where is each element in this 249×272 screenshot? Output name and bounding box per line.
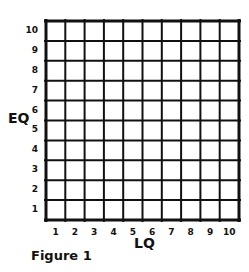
x-tick-label: 9 [202,227,218,237]
grid [44,19,241,222]
figure-caption: Figure 1 [31,248,92,263]
y-tick-label: 1 [22,204,38,214]
x-tick-label: 8 [183,227,199,237]
x-tick-label: 2 [67,227,83,237]
x-tick-label: 7 [163,227,179,237]
y-tick-label: 8 [22,65,38,75]
y-tick-label: 7 [22,85,38,95]
y-tick-label: 3 [22,164,38,174]
y-tick-label: 2 [22,184,38,194]
y-tick-label: 4 [22,144,38,154]
x-tick-label: 10 [221,227,237,237]
x-tick-label: 4 [106,227,122,237]
x-axis-title: LQ [134,235,155,251]
y-tick-label: 9 [22,45,38,55]
x-tick-label: 1 [48,227,64,237]
y-axis-title: EQ [8,110,29,126]
x-tick-label: 3 [86,227,102,237]
y-tick-label: 10 [22,25,38,35]
